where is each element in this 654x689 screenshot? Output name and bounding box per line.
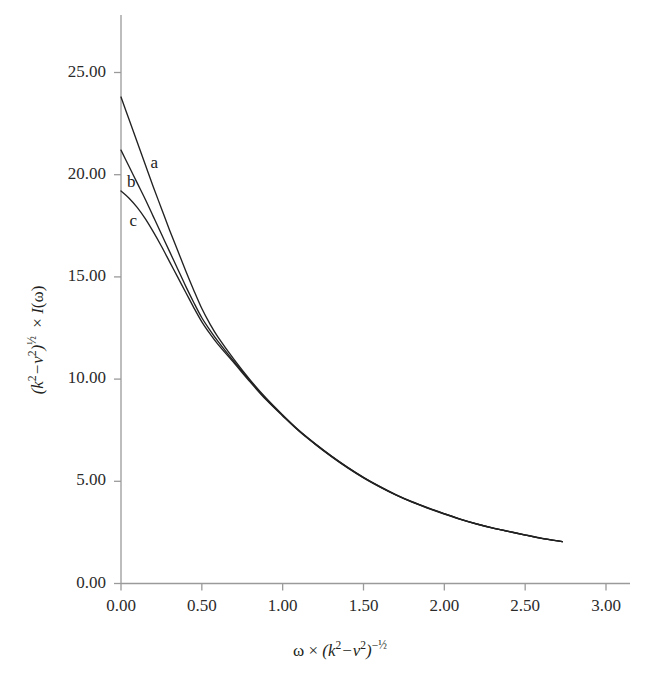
y-axis-tick-label: 25.00	[16, 62, 106, 82]
x-axis-tick-label: 2.00	[399, 596, 489, 616]
curve-label-a: a	[150, 153, 158, 173]
data-curve-c	[121, 191, 562, 542]
data-curve-b	[121, 150, 562, 541]
y-axis-tick-label: 20.00	[16, 164, 106, 184]
figure-container: 0.005.0010.0015.0020.0025.00 0.000.501.0…	[0, 0, 654, 689]
x-axis-tick-label: 0.50	[157, 596, 247, 616]
x-axis-tick-label: 3.00	[561, 596, 651, 616]
x-axis-title: ω × (k2−ν2)−½	[240, 641, 440, 661]
y-axis-title: (k2−ν2)½ × I(ω)	[28, 240, 48, 440]
x-axis-tick-label: 0.00	[76, 596, 166, 616]
x-axis-tick-label: 1.00	[238, 596, 328, 616]
curve-label-b: b	[127, 172, 136, 192]
x-axis-tick-label: 2.50	[480, 596, 570, 616]
x-axis-tick-label: 1.50	[319, 596, 409, 616]
y-axis-tick-label: 5.00	[16, 470, 106, 490]
curves-group	[121, 97, 562, 542]
y-axis-tick-label: 0.00	[16, 573, 106, 593]
curve-label-c: c	[129, 211, 137, 231]
data-curve-a	[121, 97, 562, 542]
